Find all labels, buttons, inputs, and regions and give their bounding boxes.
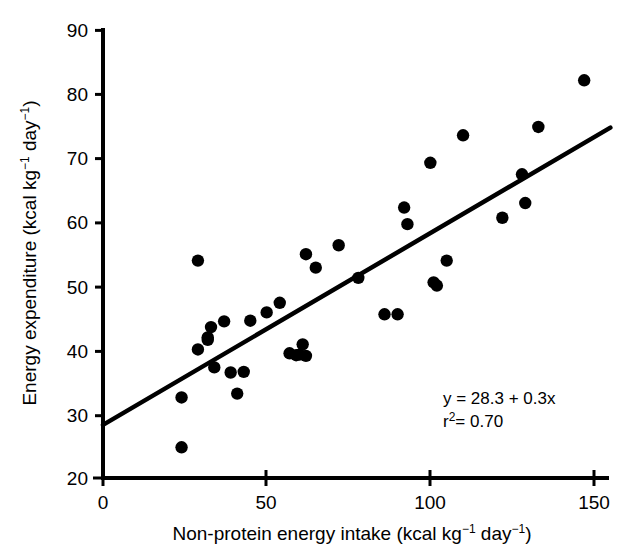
data-point bbox=[224, 366, 236, 378]
data-point bbox=[496, 212, 508, 224]
y-tick-label-80: 80 bbox=[67, 84, 88, 105]
y-tick-label-90: 90 bbox=[67, 20, 88, 41]
data-point bbox=[218, 315, 230, 327]
data-point bbox=[532, 121, 544, 133]
data-point bbox=[401, 218, 413, 230]
data-point bbox=[431, 279, 443, 291]
chart-canvas: 90 80 70 60 50 40 30 20 0 50 100 150 Non… bbox=[0, 0, 640, 549]
data-point bbox=[175, 391, 187, 403]
data-point bbox=[202, 334, 214, 346]
data-point bbox=[205, 321, 217, 333]
data-point bbox=[300, 248, 312, 260]
x-tick-labels: 0 50 100 150 bbox=[98, 492, 610, 513]
y-axis-title-sup1: −1 bbox=[18, 156, 32, 170]
y-tick-label-30: 30 bbox=[67, 405, 88, 426]
data-point bbox=[398, 201, 410, 213]
y-axis-title-prefix: Energy expenditure (kcal kg bbox=[19, 170, 40, 406]
data-point bbox=[352, 272, 364, 284]
data-point bbox=[300, 350, 312, 362]
y-axis-title-mid: day bbox=[19, 120, 40, 156]
data-point bbox=[296, 338, 308, 350]
x-tick-label-150: 150 bbox=[578, 492, 610, 513]
data-point bbox=[192, 254, 204, 266]
r-squared-value: = 0.70 bbox=[455, 412, 503, 431]
x-tick-label-0: 0 bbox=[98, 492, 109, 513]
y-axis-title-suffix: ) bbox=[19, 100, 40, 106]
x-axis-title-prefix: Non-protein energy intake (kcal kg bbox=[173, 523, 462, 544]
data-point bbox=[260, 306, 272, 318]
data-point bbox=[424, 157, 436, 169]
data-point bbox=[378, 308, 390, 320]
data-point bbox=[578, 74, 590, 86]
regression-equation-label: y = 28.3 + 0.3x bbox=[443, 389, 556, 408]
data-point bbox=[516, 168, 528, 180]
x-axis-title-mid: day bbox=[476, 523, 512, 544]
x-axis-title-sup2: −1 bbox=[511, 522, 525, 536]
x-axis-title-suffix: ) bbox=[525, 523, 531, 544]
data-point bbox=[519, 197, 531, 209]
x-axis-title: Non-protein energy intake (kcal kg−1 day… bbox=[173, 522, 532, 544]
y-tick-labels: 90 80 70 60 50 40 30 20 bbox=[67, 20, 88, 489]
x-axis-title-sup1: −1 bbox=[462, 522, 476, 536]
data-point bbox=[441, 254, 453, 266]
y-axis-title: Energy expenditure (kcal kg−1 day−1) bbox=[18, 100, 40, 405]
x-tick-label-100: 100 bbox=[414, 492, 446, 513]
x-tick-label-50: 50 bbox=[255, 492, 276, 513]
data-point bbox=[238, 366, 250, 378]
y-tick-label-60: 60 bbox=[67, 212, 88, 233]
y-axis-title-sup2: −1 bbox=[18, 106, 32, 120]
data-point bbox=[244, 315, 256, 327]
y-tick-label-50: 50 bbox=[67, 277, 88, 298]
data-point bbox=[231, 387, 243, 399]
y-tick-label-40: 40 bbox=[67, 341, 88, 362]
data-point bbox=[274, 297, 286, 309]
data-point bbox=[457, 129, 469, 141]
data-point bbox=[310, 261, 322, 273]
scatter-plot-figure: 90 80 70 60 50 40 30 20 0 50 100 150 Non… bbox=[0, 0, 640, 549]
data-point bbox=[192, 343, 204, 355]
data-point bbox=[332, 239, 344, 251]
data-point bbox=[175, 441, 187, 453]
y-tick-label-70: 70 bbox=[67, 148, 88, 169]
data-point bbox=[208, 361, 220, 373]
data-point bbox=[391, 308, 403, 320]
y-tick-label-20: 20 bbox=[67, 468, 88, 489]
r-squared-label: r2= 0.70 bbox=[443, 410, 503, 431]
